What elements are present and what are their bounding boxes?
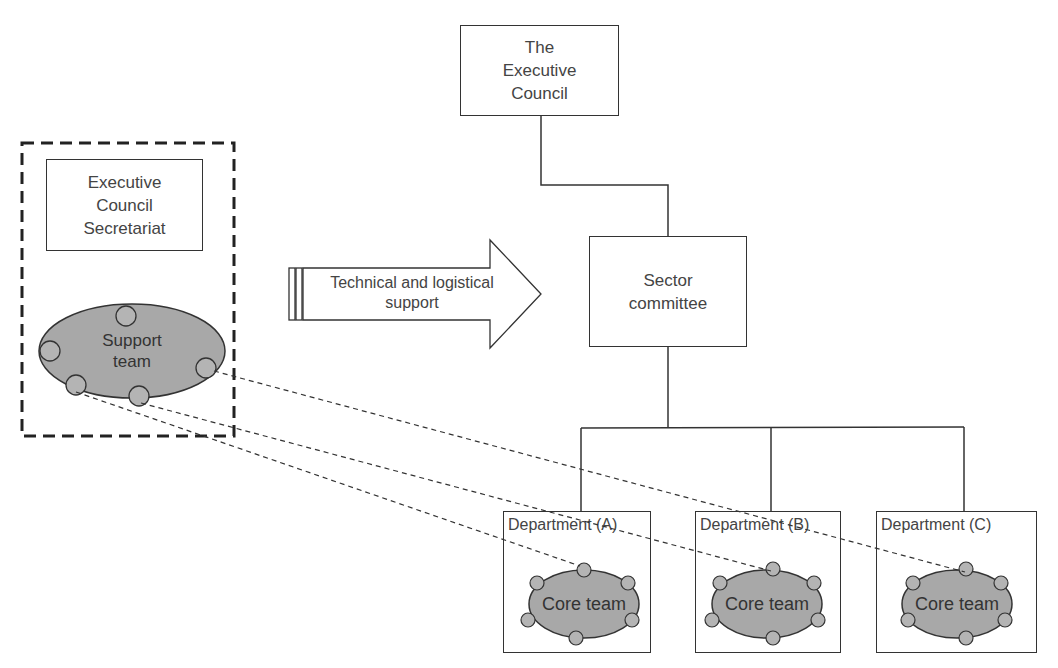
executive-council-label: The Executive Council: [503, 36, 577, 105]
department-a-label: Department (A): [508, 516, 617, 534]
member-icon: [129, 386, 149, 406]
secretariat-box: Executive Council Secretariat: [46, 159, 203, 251]
member-icon: [116, 306, 136, 326]
department-b-label: Department (B): [700, 516, 809, 534]
secretariat-label: Executive Council Secretariat: [83, 171, 165, 240]
support-arrow-label: Technical and logistical support: [303, 273, 521, 313]
sector-committee-box: Sector committee: [589, 236, 747, 347]
support-team-group: [39, 304, 225, 406]
executive-council-box: The Executive Council: [460, 25, 619, 116]
connector-council-to-sector: [541, 115, 668, 237]
sector-committee-label: Sector committee: [629, 269, 707, 315]
department-b-box: Department (B): [695, 511, 841, 653]
member-icon: [40, 341, 60, 361]
member-icon: [196, 358, 216, 378]
department-a-box: Department (A): [503, 511, 651, 653]
connector-bus: [581, 427, 964, 428]
member-icon: [66, 375, 86, 395]
department-c-label: Department (C): [881, 516, 991, 534]
department-c-box: Department (C): [876, 511, 1037, 653]
